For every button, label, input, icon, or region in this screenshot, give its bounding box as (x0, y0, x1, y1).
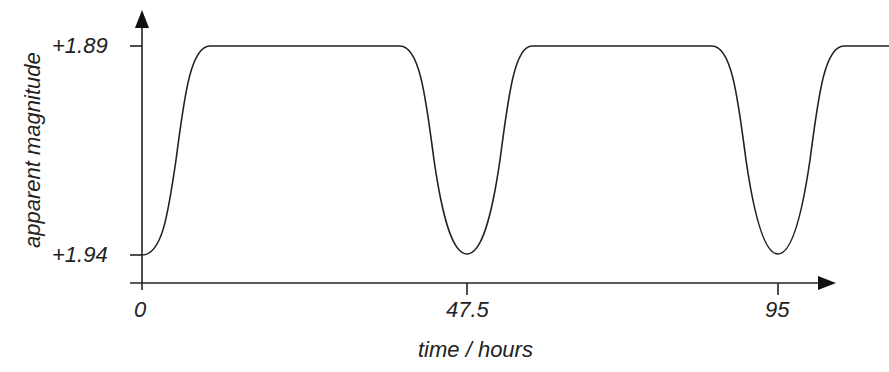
y-axis-arrow-icon (135, 10, 149, 28)
x-tick-label-47-5: 47.5 (446, 297, 489, 323)
x-tick-label-95: 95 (765, 297, 789, 323)
y-tick-label-top: +1.89 (52, 33, 108, 59)
light-curve (142, 46, 889, 255)
x-tick-label-0: 0 (134, 297, 146, 323)
x-axis-title: time / hours (418, 337, 533, 363)
x-axis-arrow-icon (818, 276, 836, 290)
y-tick-label-bottom: +1.94 (52, 242, 108, 268)
y-axis-title: apparent magnitude (20, 58, 46, 248)
